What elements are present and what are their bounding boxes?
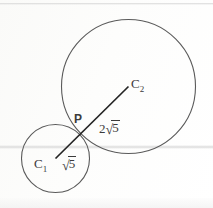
radical-small: √5 — [62, 157, 76, 172]
label-center-small-letter: C — [34, 156, 43, 171]
radicand-large: 5 — [111, 120, 120, 134]
label-center-large-subscript: 2 — [140, 84, 145, 94]
label-center-small-subscript: 1 — [43, 164, 48, 174]
label-tangent-point: P — [74, 113, 82, 125]
label-center-small: C1 — [34, 157, 47, 174]
label-center-large-letter: C — [131, 76, 140, 91]
label-radius-large: 2√5 — [99, 121, 120, 136]
radicand-small: 5 — [68, 156, 77, 170]
label-radius-small: √5 — [62, 157, 76, 172]
label-center-large: C2 — [131, 77, 144, 94]
radical-large: √5 — [106, 121, 120, 136]
diagram-canvas: C1 C2 P √5 2√5 — [0, 0, 213, 208]
geometry-figure — [0, 0, 213, 208]
